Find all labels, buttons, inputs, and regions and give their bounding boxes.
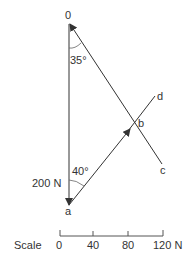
scale-label: Scale bbox=[14, 240, 42, 251]
scale-tick-80: 80 bbox=[122, 240, 134, 251]
angle-35-label: 35° bbox=[70, 55, 87, 66]
scale-tick-40: 40 bbox=[87, 240, 99, 251]
point-a-label: a bbox=[65, 206, 71, 217]
angle-arc-35 bbox=[69, 43, 81, 48]
angle-arc-40 bbox=[69, 180, 84, 186]
force-label: 200 N bbox=[32, 178, 61, 189]
scale-bar bbox=[60, 230, 163, 236]
scale-tick-120: 120 N bbox=[153, 240, 182, 251]
force-diagram bbox=[0, 0, 187, 264]
point-b-label: b bbox=[138, 118, 144, 129]
point-d-label: d bbox=[157, 91, 163, 102]
angle-40-label: 40° bbox=[72, 166, 89, 177]
line-c-o bbox=[70, 24, 162, 164]
point-o-label: 0 bbox=[65, 10, 71, 21]
point-c-label: c bbox=[160, 165, 166, 176]
scale-tick-0: 0 bbox=[56, 240, 62, 251]
